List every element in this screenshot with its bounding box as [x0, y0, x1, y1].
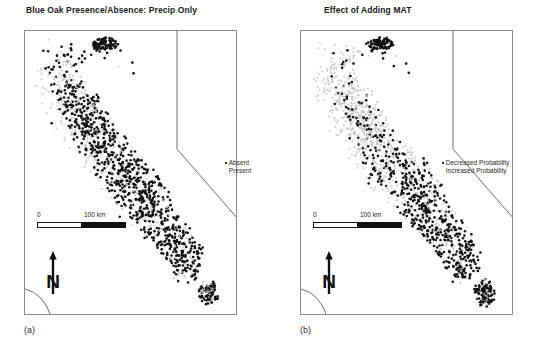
legend-label-increased: Increased Probability	[446, 167, 507, 175]
panel-b-label: (b)	[300, 325, 311, 335]
legend-item-decreased: Decreased Probability	[442, 159, 509, 167]
figure-container: Blue Oak Presence/Absence: Precip Only 0…	[0, 0, 551, 349]
panel-a-title: Blue Oak Presence/Absence: Precip Only	[26, 5, 197, 15]
panel-b-title: Effect of Adding MAT	[324, 5, 411, 15]
map-panel-b: Effect of Adding MAT 0 100 km N Decrease…	[276, 0, 551, 349]
legend-dot-spacer-icon	[442, 170, 444, 172]
scalebar-end-label: 100 km	[360, 211, 381, 218]
map-panel-a: Blue Oak Presence/Absence: Precip Only 0…	[0, 0, 275, 349]
panel-b-scalebar: 0 100 km	[313, 211, 403, 228]
scalebar-start-label: 0	[313, 211, 317, 218]
legend-item-increased: Increased Probability	[442, 167, 509, 175]
scalebar-fill	[81, 223, 125, 227]
scalebar-start-label: 0	[37, 211, 41, 218]
panel-b-legend: Decreased Probability Increased Probabil…	[442, 159, 509, 175]
legend-label-decreased: Decreased Probability	[446, 159, 510, 167]
scalebar-bar	[313, 222, 402, 228]
panel-a-label: (a)	[24, 325, 35, 335]
legend-label-present: Present	[229, 167, 251, 175]
north-arrow-label: N	[322, 271, 336, 292]
legend-item-absent: Absent	[225, 159, 251, 167]
north-arrow-label: N	[46, 271, 60, 292]
panel-a-legend: Absent Present	[225, 159, 251, 175]
legend-dot-spacer-icon	[225, 170, 227, 172]
scalebar-fill	[357, 223, 401, 227]
legend-dot-icon	[442, 162, 444, 164]
panel-a-north-arrow: N	[40, 250, 66, 296]
legend-item-present: Present	[225, 167, 251, 175]
legend-label-absent: Absent	[229, 159, 249, 167]
scalebar-bar	[37, 222, 126, 228]
panel-a-scalebar: 0 100 km	[37, 211, 127, 228]
scalebar-end-label: 100 km	[84, 211, 105, 218]
panel-b-north-arrow: N	[316, 250, 342, 296]
legend-dot-icon	[225, 162, 227, 164]
